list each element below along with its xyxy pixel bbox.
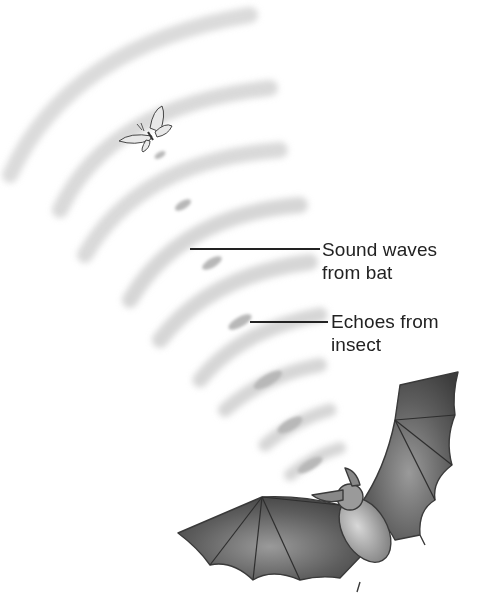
sound-waves-leader-line bbox=[190, 248, 320, 250]
echoes-leader-line bbox=[250, 321, 328, 323]
echoes-label-line2: insect bbox=[331, 333, 439, 356]
sound-waves-label-line1: Sound waves bbox=[322, 238, 437, 261]
bat-illustration bbox=[178, 372, 458, 592]
sound-waves-label: Sound waves from bat bbox=[322, 238, 437, 284]
echoes-label-line1: Echoes from bbox=[331, 310, 439, 333]
illustration bbox=[0, 0, 480, 615]
sound-waves-label-line2: from bat bbox=[322, 261, 437, 284]
sound-wave-arcs bbox=[10, 15, 340, 475]
echoes-label: Echoes from insect bbox=[331, 310, 439, 356]
echolocation-diagram: Sound waves from bat Echoes from insect bbox=[0, 0, 480, 615]
